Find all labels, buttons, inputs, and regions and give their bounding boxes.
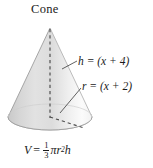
formula-height-symbol: h: [65, 144, 71, 156]
radius-label: r = (x + 2): [82, 81, 132, 93]
formula-equals: =: [31, 144, 42, 156]
formula-lhs: V: [24, 144, 31, 156]
cone-figure: Cone h = (x + 4) r = (x + 2) V = 1 3 π r…: [0, 0, 153, 168]
figure-title: Cone: [31, 3, 59, 16]
height-label: h = (x + 4): [78, 56, 129, 68]
fraction-denominator: 3: [43, 150, 49, 160]
fraction-numerator: 1: [43, 141, 49, 150]
formula-fraction: 1 3: [43, 141, 49, 159]
volume-formula: V = 1 3 π r 2 h: [24, 141, 71, 159]
